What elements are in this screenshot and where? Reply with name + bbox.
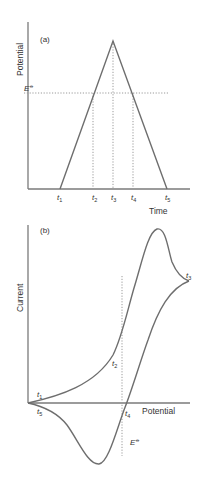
- panel-b-point-t2: t2: [112, 359, 117, 369]
- panel-a: (a) Potential Time E⦵ t1 t2 t3 t4 t5: [15, 22, 190, 216]
- panel-b-reverse-scan: [28, 281, 189, 464]
- panel-a-tick-t2: t2: [92, 193, 97, 203]
- panel-b: (b) Current Potential E⦵ t1 t2 t3 t4 t5: [15, 225, 191, 464]
- panel-b-point-t5: t5: [37, 407, 42, 417]
- panel-a-e-label: E⦵: [24, 83, 34, 93]
- cyclic-voltammetry-diagram: (a) Potential Time E⦵ t1 t2 t3 t4 t5 (b)…: [0, 0, 209, 482]
- panel-b-e-label: E⦵: [130, 437, 140, 447]
- panel-b-point-t4: t4: [125, 409, 130, 419]
- panel-a-tick-t3: t3: [111, 193, 116, 203]
- panel-b-point-t3: t3: [186, 271, 191, 281]
- panel-b-forward-scan: [28, 229, 189, 403]
- panel-a-tick-t5: t5: [165, 193, 170, 203]
- panel-b-point-t1: t1: [37, 390, 42, 400]
- panel-a-x-label: Time: [149, 206, 168, 216]
- panel-b-x-label: Potential: [142, 406, 175, 416]
- panel-a-label: (a): [40, 35, 50, 44]
- panel-b-y-label: Current: [15, 283, 25, 312]
- panel-a-y-label: Potential: [15, 43, 25, 76]
- panel-a-tick-t1: t1: [57, 193, 62, 203]
- panel-b-label: (b): [40, 226, 50, 235]
- panel-a-tick-t4: t4: [131, 193, 136, 203]
